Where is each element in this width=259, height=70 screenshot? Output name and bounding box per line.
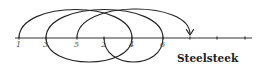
point-label: 5 — [74, 40, 79, 49]
top-arcs — [19, 9, 190, 38]
point-label: 3 — [43, 40, 48, 49]
point-labels: 135246 — [16, 40, 165, 49]
point-label: 4 — [128, 40, 134, 49]
diagram-title: Steelsteek — [177, 52, 239, 64]
stitch-diagram: 135246 Steelsteek — [0, 0, 259, 70]
point-label: 2 — [100, 40, 106, 49]
point-label: 6 — [160, 40, 165, 49]
top-arc — [46, 10, 163, 39]
top-arc — [19, 10, 132, 39]
point-label: 1 — [16, 40, 21, 49]
bottom-arc — [46, 38, 132, 62]
